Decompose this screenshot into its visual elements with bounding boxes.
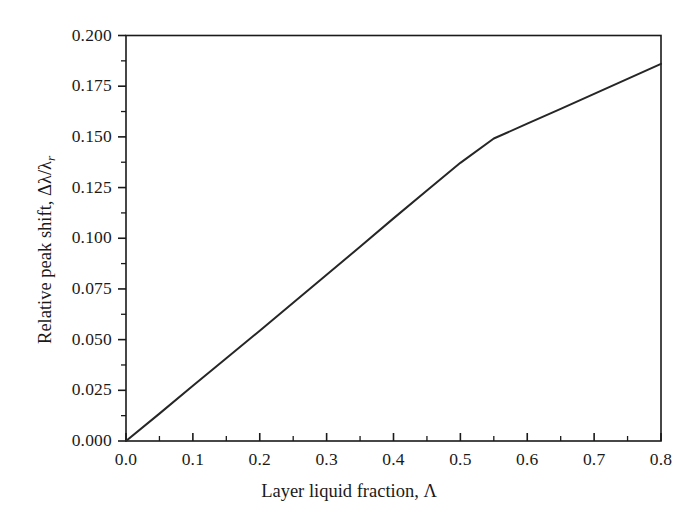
- x-tick-label: 0.8: [650, 451, 672, 469]
- x-tick-label: 0.5: [449, 451, 471, 469]
- x-axis-title: Layer liquid fraction, Λ: [0, 481, 698, 502]
- chart-figure: 0.0000.0250.0500.0750.1000.1250.1500.175…: [0, 0, 698, 519]
- x-tick-label: 0.6: [516, 451, 538, 469]
- x-axis-title-symbol: Λ: [423, 481, 436, 501]
- x-tick-label: 0.4: [382, 451, 404, 469]
- y-axis-title-text: Relative peak shift,: [35, 196, 55, 344]
- x-tick-label: 0.2: [249, 451, 271, 469]
- x-axis-title-text: Layer liquid fraction,: [261, 481, 423, 501]
- x-axis-major-ticks: [126, 433, 661, 441]
- y-tick-label: 0.200: [40, 27, 112, 45]
- y-axis-title-subscript: r: [43, 156, 58, 161]
- x-tick-label: 0.1: [182, 451, 204, 469]
- x-tick-label: 0.0: [115, 451, 137, 469]
- y-axis-major-ticks: [118, 36, 126, 442]
- y-axis-title-symbol: Δλ/λ: [35, 161, 55, 196]
- y-axis-title: Relative peak shift, Δλ/λr: [35, 50, 59, 450]
- x-tick-label: 0.7: [583, 451, 605, 469]
- plot-frame: [126, 36, 661, 442]
- data-series-group: [126, 64, 661, 441]
- x-tick-label: 0.3: [315, 451, 337, 469]
- data-line-0: [126, 64, 661, 441]
